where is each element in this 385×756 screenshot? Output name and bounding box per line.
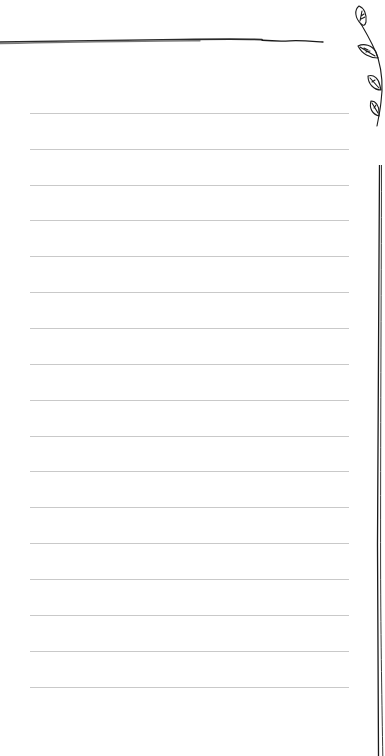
ruled-line[interactable]	[30, 328, 349, 329]
ruled-line[interactable]	[30, 507, 349, 508]
leaf-sprig-icon	[344, 2, 385, 130]
ruled-line[interactable]	[30, 579, 349, 580]
side-double-rule	[374, 165, 385, 756]
ruled-line[interactable]	[30, 364, 349, 365]
ruled-line[interactable]	[30, 149, 349, 150]
ruled-line[interactable]	[30, 256, 349, 257]
ruled-line[interactable]	[30, 471, 349, 472]
ruled-line[interactable]	[30, 436, 349, 437]
ruled-line[interactable]	[30, 113, 349, 114]
ruled-lines	[30, 0, 350, 756]
ruled-line[interactable]	[30, 220, 349, 221]
notepaper-page	[0, 0, 385, 756]
ruled-line[interactable]	[30, 651, 349, 652]
ruled-line[interactable]	[30, 543, 349, 544]
ruled-line[interactable]	[30, 185, 349, 186]
ruled-line[interactable]	[30, 292, 349, 293]
ruled-line[interactable]	[30, 615, 349, 616]
ruled-line[interactable]	[30, 687, 349, 688]
ruled-line[interactable]	[30, 400, 349, 401]
